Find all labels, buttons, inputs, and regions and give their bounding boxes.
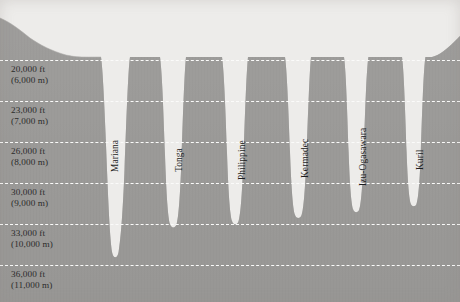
depth-label-meters: (8,000 m) [11,157,48,168]
depth-label-meters: (9,000 m) [11,198,48,209]
depth-label-20000ft: 20,000 ft (6,000 m) [11,64,48,87]
depth-label-36000ft: 36,000 ft (11,000 m) [11,269,53,292]
trench-label-philippine: Philippine [237,140,247,180]
seafloor-cross-section [0,0,460,302]
depth-label-meters: (7,000 m) [11,116,48,127]
depth-label-meters: (11,000 m) [11,280,53,291]
trench-label-kuril: Kuril [415,150,425,170]
depth-label-30000ft: 30,000 ft (9,000 m) [11,187,48,210]
depth-label-33000ft: 33,000 ft (10,000 m) [11,228,53,251]
rock-mass [0,18,460,302]
depth-label-feet: 23,000 ft [11,105,48,116]
depth-label-feet: 36,000 ft [11,269,53,280]
depth-label-feet: 33,000 ft [11,228,53,239]
depth-label-meters: (10,000 m) [11,239,53,250]
depth-label-26000ft: 26,000 ft (8,000 m) [11,146,48,169]
trench-label-izu-ogasawara: Izu-Ogasawara [358,128,368,186]
trench-depth-figure: 20,000 ft (6,000 m) 23,000 ft (7,000 m) … [0,0,460,302]
depth-label-feet: 20,000 ft [11,64,48,75]
depth-label-feet: 26,000 ft [11,146,48,157]
trench-label-tonga: Tonga [174,148,184,172]
depth-label-23000ft: 23,000 ft (7,000 m) [11,105,48,128]
depth-label-feet: 30,000 ft [11,187,48,198]
trench-label-kermadec: Kermadec [300,139,310,178]
depth-label-meters: (6,000 m) [11,75,48,86]
trench-label-mariana: Mariana [110,140,120,172]
